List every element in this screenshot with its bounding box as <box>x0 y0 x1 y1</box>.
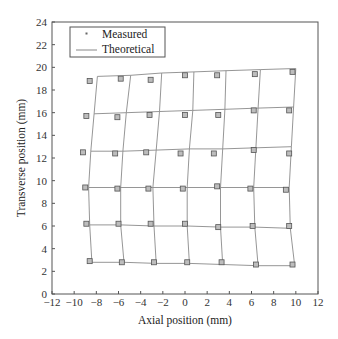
measured-point-marker <box>180 186 185 191</box>
measured-point-marker <box>290 69 295 74</box>
measured-point-marker <box>148 221 153 226</box>
y-tick-label: 4 <box>42 243 48 255</box>
measured-point-marker <box>183 221 188 226</box>
measured-point-marker <box>151 260 156 265</box>
x-tick-label: −2 <box>157 296 169 308</box>
theoretical-row-line <box>94 107 294 114</box>
measured-point-marker <box>119 260 124 265</box>
y-tick-label: 0 <box>42 288 48 300</box>
y-tick-label: 2 <box>42 265 48 277</box>
measured-point-marker <box>219 260 224 265</box>
measured-point-marker <box>83 185 88 190</box>
measured-point-marker <box>215 73 220 78</box>
y-tick-label: 22 <box>36 39 47 51</box>
measured-point-marker <box>115 186 120 191</box>
y-tick-label: 8 <box>42 197 48 209</box>
theoretical-column-line <box>221 71 227 265</box>
measured-point-marker <box>287 224 292 229</box>
theoretical-column-line <box>153 73 162 263</box>
measured-point-marker <box>216 112 221 117</box>
x-tick-label: 6 <box>249 296 255 308</box>
chart-canvas: −12−10−8−6−4−202468101202468101214161820… <box>0 0 338 339</box>
measured-point-marker <box>144 150 149 155</box>
x-tick-label: 12 <box>313 296 324 308</box>
x-tick-label: 0 <box>182 296 188 308</box>
measured-point-marker <box>183 112 188 117</box>
y-tick-label: 6 <box>42 220 48 232</box>
measured-point-marker <box>115 115 120 120</box>
y-tick-label: 10 <box>36 175 48 187</box>
theoretical-column-line <box>289 69 296 266</box>
y-tick-label: 20 <box>36 61 48 73</box>
theoretical-column-line <box>89 76 98 262</box>
theoretical-column-line <box>121 75 131 262</box>
y-tick-label: 14 <box>36 129 48 141</box>
x-tick-label: 4 <box>227 296 233 308</box>
measured-point-marker <box>84 114 89 119</box>
axis-ticks: −12−10−8−6−4−202468101202468101214161820… <box>36 16 324 308</box>
measured-point-marker <box>178 151 183 156</box>
y-axis-label: Transverse position (mm) <box>15 99 28 218</box>
y-tick-label: 24 <box>36 16 48 28</box>
measured-point-marker <box>287 108 292 113</box>
y-tick-label: 18 <box>36 84 48 96</box>
measured-point-marker <box>283 187 288 192</box>
measured-point-marker <box>253 262 258 267</box>
axes <box>52 22 318 294</box>
measured-point-marker <box>250 224 255 229</box>
theoretical-column-line <box>187 72 194 264</box>
measured-point-marker <box>215 184 220 189</box>
measured-point-marker <box>81 150 86 155</box>
legend-theoretical-label: Theoretical <box>102 43 154 55</box>
x-tick-label: 2 <box>204 296 210 308</box>
legend-measured-label: Measured <box>102 28 148 40</box>
measured-point-marker <box>84 221 89 226</box>
measured-point-marker <box>116 221 121 226</box>
measured-point-marker <box>290 262 295 267</box>
theoretical-row-line <box>97 69 295 77</box>
x-axis-label: Axial position (mm) <box>138 314 232 327</box>
theoretical-row-line <box>91 147 292 152</box>
theoretical-grid <box>89 69 296 266</box>
measured-point-marker <box>251 108 256 113</box>
measured-point-marker <box>87 259 92 264</box>
x-tick-label: −8 <box>90 296 102 308</box>
x-tick-label: −10 <box>66 296 84 308</box>
measured-point-marker <box>183 73 188 78</box>
plot-frame <box>52 22 318 294</box>
measured-point-marker <box>118 76 123 81</box>
measured-point-marker <box>287 151 292 156</box>
x-tick-label: 8 <box>271 296 277 308</box>
theoretical-column-line <box>254 70 261 266</box>
legend: Measured Theoretical <box>70 27 165 57</box>
measured-point-marker <box>216 225 221 230</box>
measured-point-marker <box>147 112 152 117</box>
y-tick-label: 12 <box>36 152 47 164</box>
measured-point-marker <box>148 77 153 82</box>
measured-point-marker <box>251 148 256 153</box>
legend-measured-marker-icon <box>86 33 88 35</box>
measured-point-marker <box>185 260 190 265</box>
measured-point-marker <box>248 186 253 191</box>
x-tick-label: −4 <box>135 296 147 308</box>
measured-point-marker <box>211 151 216 156</box>
y-tick-label: 16 <box>36 107 48 119</box>
measured-point-marker <box>146 186 151 191</box>
measured-point-marker <box>113 151 118 156</box>
measured-point-marker <box>252 72 257 77</box>
x-tick-label: 10 <box>290 296 302 308</box>
measured-point-marker <box>87 78 92 83</box>
x-tick-label: −6 <box>113 296 125 308</box>
